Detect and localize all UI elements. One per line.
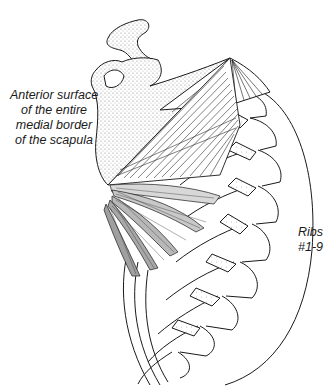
anatomical-illustration [0,0,334,389]
scapula-label-line-1: Anterior surface [2,88,106,103]
ribs-label-line-1: Ribs [298,225,328,240]
scapula-label-line-4: of the scapula [2,133,106,148]
scapula-label-line-2: of the entire [2,103,106,118]
scapula-label-line-3: medial border [2,118,106,133]
ribs-label: Ribs #1-9 [298,225,328,255]
scapula-origin-label: Anterior surface of the entire medial bo… [2,88,106,148]
ribs-label-line-2: #1-9 [298,240,328,255]
serratus-anterior-lower-slips [104,184,220,276]
